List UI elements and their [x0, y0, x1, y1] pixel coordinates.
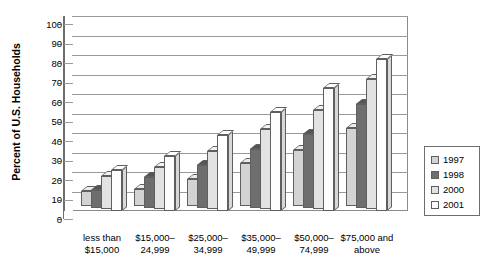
bar-face — [111, 170, 122, 211]
gridline-tilt — [64, 219, 73, 220]
x-tick-label-line: $75,000 and — [329, 232, 405, 244]
legend-item-2001[interactable]: 2001 — [431, 197, 479, 212]
bar-group — [235, 16, 287, 211]
bar-2001-4 — [323, 88, 334, 211]
legend-swatch-icon — [431, 171, 439, 179]
bar-face — [376, 59, 387, 211]
legend-label: 2001 — [443, 200, 464, 210]
bar-group — [288, 16, 340, 211]
bar-group — [182, 16, 234, 211]
bar-2001-2 — [217, 135, 228, 211]
bar-side — [387, 55, 392, 211]
legend-label: 1998 — [443, 170, 464, 180]
legend-item-2000[interactable]: 2000 — [431, 182, 479, 197]
bar-side — [281, 108, 286, 211]
bar-2001-1 — [164, 156, 175, 211]
gridline-tilt — [64, 102, 73, 103]
y-tick-mark — [58, 180, 62, 181]
legend: 1997199820002001 — [424, 146, 480, 216]
y-axis-title: Percent of U.S. Households — [10, 17, 22, 207]
legend-swatch-icon — [431, 156, 439, 164]
y-axis-tick-labels: 1009080706050403020100 — [28, 0, 62, 271]
gridline-tilt — [64, 44, 73, 45]
legend-label: 2000 — [443, 185, 464, 195]
bar-face — [270, 112, 281, 211]
plot-left-wall — [64, 16, 73, 219]
legend-label: 1997 — [443, 155, 464, 165]
gridline-tilt — [64, 63, 73, 64]
bar-2001-5 — [376, 59, 387, 211]
y-tick-mark — [58, 102, 62, 103]
plot-area — [64, 16, 408, 219]
gridline-tilt — [64, 83, 73, 84]
bar-group — [129, 16, 181, 211]
bar-group — [341, 16, 393, 211]
gridline-tilt — [64, 200, 73, 201]
gridline-tilt — [64, 180, 73, 181]
y-tick-mark — [58, 83, 62, 84]
bar-face — [217, 135, 228, 211]
bar-group — [76, 16, 128, 211]
y-tick-mark — [58, 141, 62, 142]
legend-item-1998[interactable]: 1998 — [431, 167, 479, 182]
bar-face — [323, 88, 334, 211]
bar-side — [334, 84, 339, 211]
y-tick-mark — [58, 44, 62, 45]
bar-side — [228, 131, 233, 211]
x-tick-label-line: above — [329, 244, 405, 256]
y-tick-mark — [58, 219, 62, 220]
legend-swatch-icon — [431, 186, 439, 194]
y-tick-mark — [58, 63, 62, 64]
bar-side — [175, 152, 180, 211]
bar-chart: Percent of U.S. Households 1009080706050… — [0, 0, 487, 271]
y-tick-mark — [58, 161, 62, 162]
bar-2001-0 — [111, 170, 122, 211]
bar-face — [164, 156, 175, 211]
gridline-tilt — [64, 24, 73, 25]
gridline-tilt — [64, 141, 73, 142]
y-tick-mark — [58, 200, 62, 201]
plot-floor — [64, 211, 408, 219]
gridline-tilt — [64, 161, 73, 162]
bar-2001-3 — [270, 112, 281, 211]
legend-swatch-icon — [431, 201, 439, 209]
legend-item-1997[interactable]: 1997 — [431, 152, 479, 167]
y-tick-mark — [58, 122, 62, 123]
x-tick-label: $75,000 andabove — [329, 232, 405, 256]
bar-side — [122, 166, 127, 211]
y-tick-mark — [58, 24, 62, 25]
gridline-tilt — [64, 122, 73, 123]
